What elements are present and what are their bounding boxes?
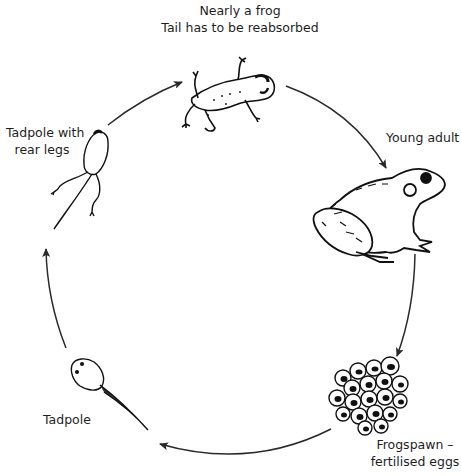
label-nearly-a-frog-line2: Tail has to be reabsorbed [150,19,330,36]
arrow-tadpole-to-rearlegs [46,249,66,348]
label-nearly-a-frog-line1: Nearly a frog [150,2,330,19]
arrow-rearlegs-to-nearlyfrog [108,82,182,125]
label-frogspawn-line1: Frogspawn – [370,436,460,453]
arrow-youngadult-to-frogspawn [397,254,415,356]
label-tadpole: Tadpole [43,411,91,428]
label-tadpole-with-rear-legs-line2: rear legs [6,141,78,158]
young-adult-frog-illustration [314,169,445,262]
label-nearly-a-frog: Nearly a frog Tail has to be reabsorbed [150,2,330,36]
nearly-frog-illustration [182,57,274,131]
label-young-adult: Young adult [386,129,459,146]
label-frogspawn: Frogspawn – fertilised eggs [370,436,460,470]
label-frogspawn-line2: fertilised eggs [370,453,460,470]
frog-life-cycle-diagram: Nearly a frog Tail has to be reabsorbed … [0,0,461,476]
frogspawn-illustration [329,357,408,435]
arrow-frogspawn-to-tadpole [160,429,331,454]
cycle-arrows [0,0,461,476]
label-tadpole-with-rear-legs: Tadpole with rear legs [6,124,78,158]
label-tadpole-with-rear-legs-line1: Tadpole with [6,124,78,141]
arrow-nearlyfrog-to-youngadult [286,86,386,168]
